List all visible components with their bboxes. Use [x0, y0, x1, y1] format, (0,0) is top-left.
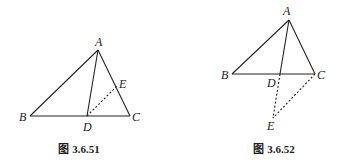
label-c: C — [132, 110, 141, 124]
label-b: B — [221, 68, 229, 82]
label-c: C — [317, 68, 326, 82]
caption-figure-1: 图 3.6.51 — [58, 143, 99, 155]
segment-ce-dashed — [273, 74, 315, 118]
label-d: D — [82, 120, 92, 134]
label-e: E — [266, 119, 275, 133]
segment-ab — [232, 20, 289, 74]
segment-ab — [30, 50, 98, 116]
figure-3-6-52 — [232, 20, 315, 118]
caption-figure-2: 图 3.6.52 — [253, 143, 295, 155]
label-d: D — [266, 76, 276, 90]
label-a: A — [94, 35, 103, 49]
segment-ac — [289, 20, 315, 74]
label-e: E — [118, 77, 127, 91]
segment-ad — [280, 20, 289, 74]
figure-3-6-51 — [30, 50, 130, 116]
label-b: B — [19, 110, 27, 124]
geometry-figures: A B C D E 图 3.6.51 A B C D E 图 3.6.52 — [0, 0, 340, 168]
label-a: A — [282, 4, 291, 18]
